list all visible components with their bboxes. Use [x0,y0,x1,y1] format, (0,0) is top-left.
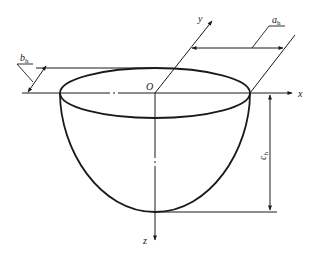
hemi-ellipsoid-diagram: x z y O ah bh c [0,0,319,256]
b-dimension: bh [17,52,46,92]
a-dimension-label: ah [272,14,281,27]
b-dimension-label: bh [20,52,29,65]
a-extension-line [250,35,295,93]
a-dimension: ah [192,14,285,48]
y-axis: y [155,13,212,93]
y-axis-label: y [197,13,203,24]
c-dimension-label: ch [257,152,270,160]
x-axis-label: x [297,88,303,99]
origin-label: O [146,81,153,92]
x-axis: x [22,88,303,99]
z-axis: z [142,93,155,246]
z-axis-label: z [142,235,147,246]
